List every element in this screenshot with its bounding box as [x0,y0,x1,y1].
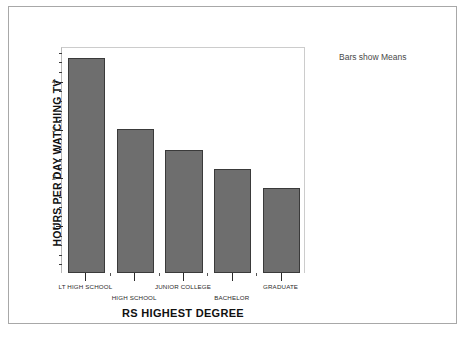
y-tick-minor [59,101,62,102]
y-tick-label: 3 [42,126,56,133]
y-tick-minor [59,62,62,63]
x-tick [85,273,86,281]
x-tick-label: BACHELOR [197,295,267,301]
legend-note: Bars show Means [339,52,407,62]
x-tick [134,273,135,281]
y-tick-minor [59,236,62,237]
bar-series [62,48,304,273]
bar [214,169,251,273]
x-tick-label: LT HIGH SCHOOL [50,284,120,290]
y-tick-minor [59,111,62,112]
chart-figure: HOURS PER DAY WATCHING TV 1234 LT HIGH S… [8,6,457,324]
y-tick-label: 1 [42,222,56,229]
x-tick [281,273,282,281]
y-tick-major [56,178,63,179]
y-tick-label: 4 [42,78,56,85]
y-tick-minor [59,187,62,188]
x-tick-separator [256,273,257,276]
bar [165,150,202,273]
plot-area: 1234 [61,47,305,273]
x-tick [232,273,233,281]
x-tick-label: GRADUATE [246,284,316,290]
y-tick-minor [59,264,62,265]
y-tick-minor [59,120,62,121]
y-tick-minor [59,168,62,169]
x-tick-label: HIGH SCHOOL [99,295,169,301]
y-tick-minor [59,149,62,150]
y-tick-minor [59,139,62,140]
bar [263,188,300,273]
y-tick-major [56,82,63,83]
y-tick-major [56,226,63,227]
x-tick-separator [207,273,208,276]
y-tick-label: 2 [42,174,56,181]
y-tick-minor [59,72,62,73]
x-axis: LT HIGH SCHOOLHIGH SCHOOLJUNIOR COLLEGEB… [61,273,305,283]
bar [117,129,154,273]
y-tick-minor [59,216,62,217]
y-tick-major [56,130,63,131]
y-tick-minor [59,159,62,160]
y-tick-minor [59,53,62,54]
x-tick [183,273,184,281]
y-tick-minor [59,207,62,208]
y-tick-minor [59,197,62,198]
x-tick-label: JUNIOR COLLEGE [148,284,218,290]
bar [68,58,105,273]
y-tick-minor [59,255,62,256]
x-tick-separator [159,273,160,276]
x-tick-separator [110,273,111,276]
x-axis-title: RS HIGHEST DEGREE [61,307,305,319]
y-tick-minor [59,245,62,246]
y-tick-minor [59,91,62,92]
